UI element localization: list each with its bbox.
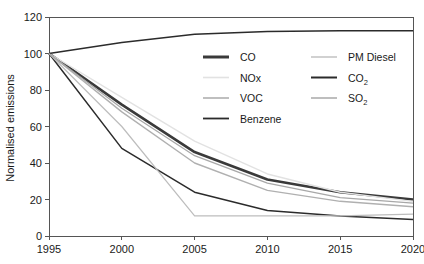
legend-label: NOx [240,72,262,84]
legend-label: PM Diesel [348,51,396,63]
y-tick-label: 20 [30,194,42,206]
x-tick-label: 2000 [110,243,134,255]
y-tick-label: 80 [30,84,42,96]
x-tick-label: 2010 [255,243,279,255]
y-tick-label: 0 [36,230,42,242]
x-tick-label: 2020 [401,243,424,255]
x-tick-label: 2015 [328,243,352,255]
y-tick-label: 120 [24,11,42,23]
emissions-line-chart: 120100806040200 199520002005201020152020… [0,0,424,264]
y-tick-label: 40 [30,157,42,169]
y-axis-title: Normalised emissions [4,74,16,182]
legend-label: VOC [240,92,263,104]
chart-background [0,0,424,264]
chart-canvas: 120100806040200 199520002005201020152020… [0,0,424,264]
legend-label: CO [240,51,256,63]
y-tick-label: 60 [30,121,42,133]
x-tick-label: 2005 [182,243,206,255]
y-tick-label: 100 [24,48,42,60]
legend-label: Benzene [240,113,282,125]
x-tick-label: 1995 [37,243,61,255]
